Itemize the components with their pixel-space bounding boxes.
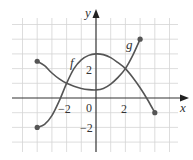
endpoint-dot-icon (35, 125, 40, 130)
endpoint-dot-icon (138, 37, 143, 42)
x-tick-neg2: −2 (58, 102, 71, 116)
curve-g-label: g (126, 37, 133, 52)
x-axis-label: x (179, 100, 186, 115)
grid (12, 18, 178, 152)
endpoint-dot-icon (152, 110, 157, 115)
y-axis-label: y (83, 5, 91, 20)
y-tick-2: 2 (86, 63, 92, 77)
function-graph: x y −2 0 2 2 −2 f g (0, 0, 193, 160)
x-tick-2: 2 (121, 102, 127, 116)
y-axis-arrow-icon (93, 9, 100, 18)
x-tick-0: 0 (86, 101, 92, 115)
axes (12, 9, 189, 152)
endpoint-dot-icon (35, 59, 40, 64)
y-tick-neg2: −2 (80, 121, 93, 135)
